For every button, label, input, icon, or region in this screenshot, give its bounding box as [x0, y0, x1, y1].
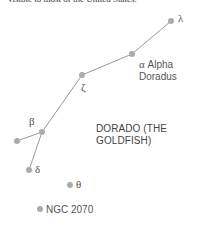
title-line2: GOLDFISH) — [96, 135, 151, 146]
star-beta — [39, 129, 45, 135]
nebula-ngc2070 — [37, 206, 43, 212]
star-markers — [14, 18, 174, 212]
star-alpha — [129, 51, 135, 57]
star-unnamed — [14, 138, 20, 144]
star-theta — [67, 182, 73, 188]
label-beta: β — [29, 116, 35, 127]
line-lambda-alpha — [132, 21, 171, 54]
label-zeta: ζ — [81, 82, 86, 93]
constellation-lines — [17, 21, 171, 170]
star-lambda — [168, 18, 174, 24]
alpha-name-line1: Alpha — [148, 59, 174, 70]
star-zeta — [79, 72, 85, 78]
label-lambda: λ — [178, 13, 183, 24]
alpha-name-line2: Doradus — [139, 71, 177, 82]
constellation-title: DORADO (THE GOLDFISH) — [96, 123, 167, 147]
line-zeta-beta — [42, 75, 82, 132]
label-alpha: α Alpha Doradus — [139, 58, 177, 83]
line-alpha-zeta — [82, 54, 132, 75]
line-beta-unnamed — [17, 132, 42, 141]
alpha-symbol: α — [139, 58, 145, 70]
star-delta — [26, 167, 32, 173]
label-theta: θ — [76, 179, 81, 190]
title-line1: DORADO (THE — [96, 123, 167, 134]
label-ngc2070: NGC 2070 — [46, 204, 93, 215]
label-delta: δ — [35, 164, 40, 175]
